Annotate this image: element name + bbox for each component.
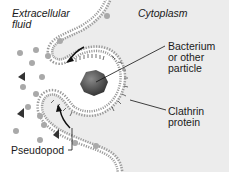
clathrin-label: Clathrin protein [168, 106, 204, 128]
bacterium-label: Bacterium or other particle [168, 41, 215, 74]
cytoplasm-label: Cytoplasm [138, 8, 188, 19]
extracellular-fluid-label: Extracellular fluid [12, 8, 70, 30]
phagocytosis-diagram: Extracellular fluid Cytoplasm Bacterium … [0, 0, 229, 172]
bacterium-particle [80, 70, 108, 96]
pseudopod-label: Pseudopod [11, 145, 64, 156]
